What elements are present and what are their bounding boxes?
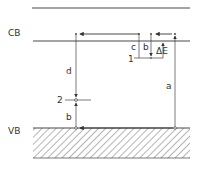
hole-state [174,127,177,130]
d-label: d [66,66,72,76]
band-diagram: CB VB d a b 2 c b ΔE 1 [0,0,201,171]
electron-dot [174,33,176,35]
a-label: a [166,81,172,91]
vb-label: VB [8,126,20,136]
delta-e-label: ΔE [156,46,168,56]
b-lower-label: b [66,112,72,122]
electron-dot [75,33,77,35]
hole-state [75,127,78,130]
cb-label: CB [8,28,20,38]
b-upper-label: b [143,42,149,52]
level-1-state [150,57,152,59]
electron-dot [150,33,152,35]
level-2-label: 2 [57,95,63,105]
level-1-label: 1 [128,54,134,64]
c-label: c [131,42,136,52]
level-2-state [75,99,78,102]
valence-band-region [33,128,190,158]
